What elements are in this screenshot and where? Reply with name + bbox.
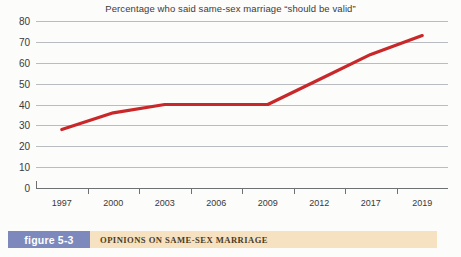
y-axis-tick-label: 10 [19,162,30,173]
series-line-layer [36,21,448,188]
y-axis-tick-label: 70 [19,36,30,47]
x-axis-tick-label: 2012 [309,198,329,208]
y-axis-tick-label: 0 [24,183,30,194]
x-axis-tick-label: 2017 [361,198,381,208]
x-axis-tick-label: 2006 [206,198,226,208]
figure-caption-text: OPINIONS ON SAME-SEX MARRIAGE [90,231,437,248]
x-axis-tick-label: 2003 [155,198,175,208]
chart-title: Percentage who said same-sex marriage “s… [0,3,461,14]
y-axis-tick-label: 40 [19,99,30,110]
y-axis-tick-label: 60 [19,57,30,68]
y-axis-tick-label: 30 [19,120,30,131]
x-axis-tick-label: 1997 [52,198,72,208]
y-axis-tick-label: 20 [19,141,30,152]
series-line [62,36,423,130]
plot-area: 01020304050607080 1997200020032006200920… [36,21,448,188]
x-axis-tick-label: 2009 [258,198,278,208]
x-axis-tick-label: 2000 [103,198,123,208]
y-axis-tick-label: 80 [19,16,30,27]
figure-number-badge: figure 5-3 [8,231,90,248]
figure-container: Percentage who said same-sex marriage “s… [0,0,461,257]
x-axis-tick-label: 2019 [412,198,432,208]
figure-caption-bar: figure 5-3 OPINIONS ON SAME-SEX MARRIAGE [8,231,437,248]
y-axis-tick-label: 50 [19,78,30,89]
